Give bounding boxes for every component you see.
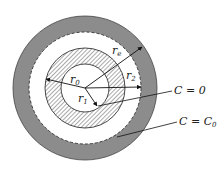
c-c0-label: C = C0 bbox=[179, 115, 217, 129]
concentric-circles-diagram: r0 r1 r2 re C = 0 C = C0 bbox=[0, 0, 219, 172]
c-zero-label: C = 0 bbox=[174, 84, 206, 97]
